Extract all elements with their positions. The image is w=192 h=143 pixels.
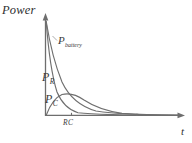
curve-label-p-capacitor: PC: [45, 90, 57, 106]
curve-label-base: P: [42, 70, 49, 84]
label-leader-battery: [53, 36, 58, 41]
x-axis-label: t: [181, 126, 184, 137]
curve-label-base: P: [45, 92, 52, 106]
curve-label-base: P: [58, 34, 65, 46]
curve-p-capacitor: [46, 94, 178, 115]
arrow-up-icon: [43, 13, 49, 21]
curve-label-p-battery: Pbattery: [58, 31, 82, 47]
plot-canvas: [0, 0, 192, 143]
arrow-right-icon: [178, 113, 186, 119]
curve-label-subscript: battery: [65, 42, 82, 48]
y-axis-label: Power: [2, 4, 36, 17]
x-tick-label-rc: RC: [63, 118, 73, 127]
curve-label-subscript: R: [50, 77, 55, 86]
curve-label-p-resistor: PR: [42, 68, 54, 84]
power-vs-time-figure: Power t RC Pbattery PR PC: [0, 0, 192, 143]
curve-label-subscript: C: [53, 99, 58, 108]
